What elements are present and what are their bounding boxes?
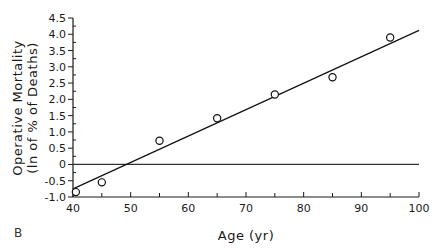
y-tick-label: 0: [59, 158, 66, 171]
panel-label: B: [14, 226, 22, 240]
x-tick-label: 50: [124, 202, 138, 215]
y-tick-label: 2.0: [49, 93, 67, 106]
y-tick-label: 1.0: [49, 126, 67, 139]
y-tick-label: 2.5: [49, 77, 67, 90]
data-point: [156, 137, 163, 144]
data-point: [98, 179, 105, 186]
y-tick-label: 4.5: [49, 12, 67, 25]
data-points: [72, 34, 393, 196]
x-tick-label: 60: [181, 202, 195, 215]
data-point: [72, 189, 79, 196]
data-point: [214, 115, 221, 122]
y-tick-label: -1.0: [45, 191, 66, 204]
y-tick-label: 1.5: [49, 110, 67, 123]
y-tick-label: 0.5: [49, 142, 67, 155]
y-tick-label: 4.0: [49, 28, 67, 41]
y-tick-label: 3.5: [49, 45, 67, 58]
data-point: [271, 91, 278, 98]
data-point: [329, 74, 336, 81]
y-tick-label: -0.5: [45, 175, 66, 188]
regression-line: [73, 30, 419, 188]
y-tick-label: 3.0: [49, 61, 67, 74]
data-point: [387, 34, 394, 41]
x-tick-label: 100: [409, 202, 430, 215]
x-tick-label: 80: [297, 202, 311, 215]
x-tick-label: 40: [66, 202, 80, 215]
y-axis-title-line1: Operative Mortality: [10, 40, 25, 175]
x-tick-label: 90: [354, 202, 368, 215]
mortality-chart: -1.0-0.500.51.01.52.02.53.03.54.04.54050…: [0, 0, 439, 248]
x-axis-title: Age (yr): [218, 228, 274, 243]
x-tick-label: 70: [239, 202, 253, 215]
y-axis-title-line2: (ln of % of Deaths): [25, 42, 40, 174]
